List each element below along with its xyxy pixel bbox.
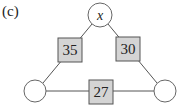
node-top: x <box>88 3 112 27</box>
node-bottom-left <box>24 80 46 102</box>
graph-diagram: (c) x 35 30 27 <box>0 0 180 111</box>
node-bottom-right-circle <box>154 80 176 102</box>
weight-bottom-label: 27 <box>94 84 110 100</box>
weight-box-right: 30 <box>116 37 140 61</box>
weight-box-left: 35 <box>58 38 82 62</box>
node-bottom-left-circle <box>24 80 46 102</box>
weight-left-label: 35 <box>63 42 78 58</box>
panel-label: (c) <box>2 3 19 20</box>
weight-box-bottom: 27 <box>89 80 113 104</box>
weight-right-label: 30 <box>121 41 136 57</box>
node-top-label: x <box>96 8 104 23</box>
node-bottom-right <box>154 80 176 102</box>
